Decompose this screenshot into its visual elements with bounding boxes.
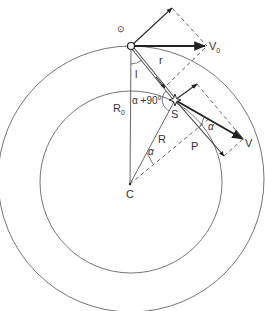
r-label: r: [159, 54, 163, 66]
R0-line: [130, 46, 131, 184]
observer-point: [128, 43, 135, 50]
V0-dashed-top: [172, 8, 207, 46]
V-dashed-bottom: [224, 139, 243, 156]
galactic-rotation-diagram: ⊙ V0 r l α +90° R0 S α V P R α C: [0, 0, 265, 311]
R-line: [130, 100, 175, 184]
V0-dashed-bottom: [166, 48, 205, 86]
observer-symbol-label: ⊙: [117, 24, 125, 34]
alpha-near-C-label: α: [148, 146, 154, 157]
V-vector: [175, 100, 243, 139]
V-label: V: [245, 137, 253, 149]
V0-tangential-component: [131, 8, 172, 46]
V0-label: V0: [209, 40, 220, 54]
radial-arrow: [156, 77, 165, 88]
angle-l-arc: [131, 60, 142, 64]
P-label: P: [191, 140, 198, 152]
center-point: [129, 183, 131, 185]
alpha-plus-90-label: α +90°: [132, 95, 162, 106]
alpha-near-V-label: α: [208, 121, 214, 132]
R0-label: R0: [113, 102, 125, 116]
V-dashed-top: [197, 84, 243, 139]
l-label: l: [135, 68, 137, 80]
C-label: C: [126, 188, 134, 200]
outer-orbit-circle: [0, 46, 264, 311]
S-label: S: [171, 108, 178, 120]
R-label: R: [158, 133, 166, 145]
line-of-sight-inner: [131, 46, 175, 100]
V-tangential-component: [175, 84, 197, 100]
V-radial-component: [175, 100, 224, 156]
